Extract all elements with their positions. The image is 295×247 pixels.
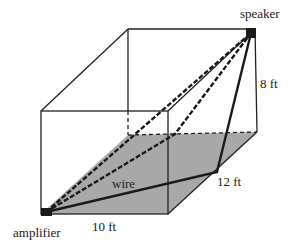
speaker-icon — [246, 28, 256, 38]
room-diagram: speaker amplifier wire 10 ft 12 ft 8 ft — [0, 0, 295, 247]
back-right-edge — [255, 29, 257, 132]
width-label: 10 ft — [92, 219, 117, 234]
amplifier-label: amplifier — [13, 225, 61, 240]
amplifier-icon — [41, 208, 52, 216]
top-left-depth-edge — [41, 29, 128, 111]
height-label: 8 ft — [260, 76, 278, 91]
wire-label: wire — [112, 176, 135, 191]
speaker-label: speaker — [240, 6, 280, 21]
depth-label: 12 ft — [217, 174, 242, 189]
